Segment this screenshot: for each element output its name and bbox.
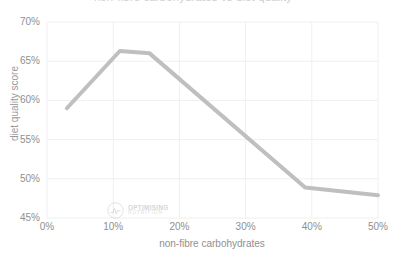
data-line-series [47, 22, 378, 218]
watermark: OPTIMISING NUTRITION [107, 202, 169, 219]
y-axis-tick-labels: 45%50%55%60%65%70% [0, 0, 44, 258]
watermark-subtitle: NUTRITION [128, 211, 169, 216]
y-tick-label: 70% [0, 16, 40, 27]
y-tick-label: 60% [0, 94, 40, 105]
y-tick-label: 55% [0, 134, 40, 145]
y-tick-label: 65% [0, 55, 40, 66]
x-tick-label: 30% [226, 221, 266, 232]
x-axis-tick-labels: 0%10%20%30%40%50% [0, 221, 386, 237]
x-axis-title: non-fibre carbohydrates [47, 238, 377, 249]
x-tick-label: 50% [358, 221, 393, 232]
x-tick-label: 40% [292, 221, 332, 232]
y-tick-label: 50% [0, 173, 40, 184]
x-tick-label: 0% [27, 221, 67, 232]
x-tick-label: 10% [93, 221, 133, 232]
series-polyline [67, 51, 378, 195]
plot-area: OPTIMISING NUTRITION [47, 22, 378, 218]
chart-title: non-fibre carbohydrates vs diet quality [0, 0, 386, 3]
optimising-nutrition-logo-icon [107, 202, 124, 219]
x-tick-label: 20% [159, 221, 199, 232]
